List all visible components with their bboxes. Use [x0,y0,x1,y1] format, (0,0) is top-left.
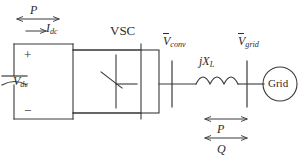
vsc-dc-frame [73,44,141,119]
label-dc-current-subscript: dc [50,27,58,36]
dc-positive-rail [14,44,73,50]
label-grid-voltage-symbol: V [238,35,245,47]
dc-negative-rail [14,113,73,119]
label-polarity-plus: + [24,48,31,61]
label-dc-current: Idc [46,22,58,36]
label-reactance-symbol: jX [199,54,210,68]
label-grid-voltage-subscript: grid [245,40,259,49]
label-converter-voltage-subscript: conv [170,40,185,49]
label-converter: VSC [110,24,135,37]
inductor-jXL [196,77,238,84]
label-dc-voltage-subscript: dc [20,80,28,89]
label-grid-source: Grid [268,78,288,89]
label-reactive-power: Q [217,143,226,155]
label-converter-voltage-symbol: V [163,35,170,47]
label-polarity-minus: − [24,104,31,117]
label-reactance-subscript: L [210,60,215,69]
label-dc-power: P [30,4,37,16]
label-active-power: P [217,123,224,135]
label-dc-voltage: Vdc [13,75,28,89]
vsc-grid-diagram: P Idc VSC + Vdc − Vconv jXL Vgrid Grid P… [0,0,305,164]
label-reactance: jXL [199,55,214,69]
vsc-switch-symbol [101,55,137,108]
label-converter-voltage: Vconv [163,35,186,49]
label-grid-voltage: Vgrid [238,35,259,49]
